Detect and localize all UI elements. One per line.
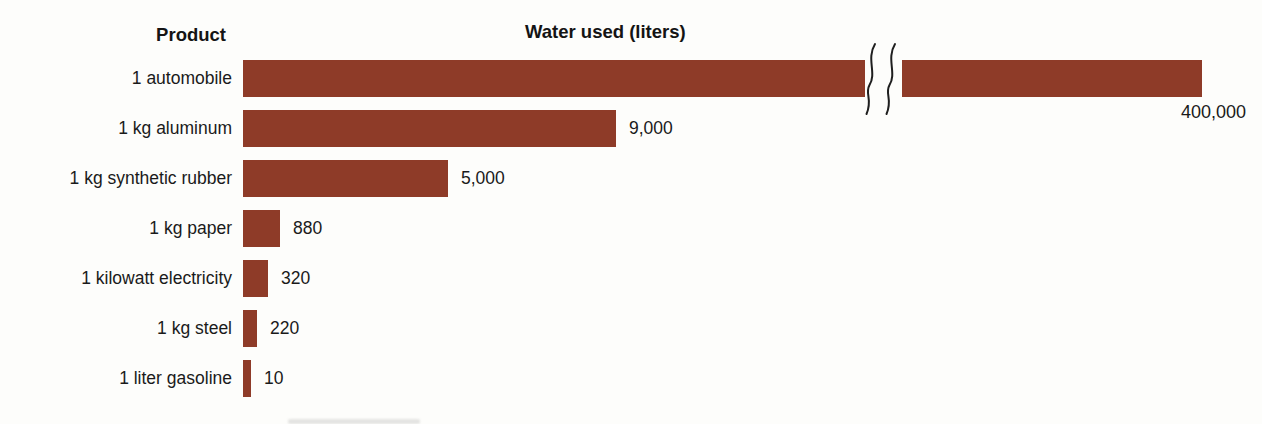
bar <box>243 210 280 247</box>
value-label: 220 <box>270 310 299 347</box>
axis-break-squiggle-icon <box>862 42 906 116</box>
category-label: 1 kg paper <box>0 210 232 247</box>
category-label: 1 kg steel <box>0 310 232 347</box>
value-label: 880 <box>293 210 322 247</box>
category-label: 1 kg aluminum <box>0 110 232 147</box>
column-header-product: Product <box>0 24 226 46</box>
bar <box>243 160 448 197</box>
bar <box>243 310 257 347</box>
bar-segment-left <box>243 60 865 97</box>
value-label: 5,000 <box>461 160 505 197</box>
bar <box>243 360 251 397</box>
category-label: 1 kg synthetic rubber <box>0 160 232 197</box>
value-label: 320 <box>281 260 310 297</box>
bar <box>243 110 616 147</box>
category-label: 1 automobile <box>0 60 232 97</box>
value-label: 9,000 <box>629 110 673 147</box>
chart-row: 1 liter gasoline10 <box>0 360 1262 397</box>
chart-row: 1 kg steel220 <box>0 310 1262 347</box>
category-label: 1 liter gasoline <box>0 360 232 397</box>
bar <box>243 260 268 297</box>
chart-row: 1 kg synthetic rubber5,000 <box>0 160 1262 197</box>
cropped-caption-fragment <box>288 419 420 424</box>
chart-row: 1 kilowatt electricity320 <box>0 260 1262 297</box>
chart-row: 1 kg paper880 <box>0 210 1262 247</box>
chart-row: 1 automobile400,000 <box>0 60 1262 97</box>
value-label: 10 <box>264 360 283 397</box>
bar-segment-right <box>902 60 1202 97</box>
category-label: 1 kilowatt electricity <box>0 260 232 297</box>
chart-row: 1 kg aluminum9,000 <box>0 110 1262 147</box>
water-usage-chart: Product Water used (liters) 1 automobile… <box>0 0 1262 424</box>
column-header-water-used: Water used (liters) <box>525 21 686 43</box>
